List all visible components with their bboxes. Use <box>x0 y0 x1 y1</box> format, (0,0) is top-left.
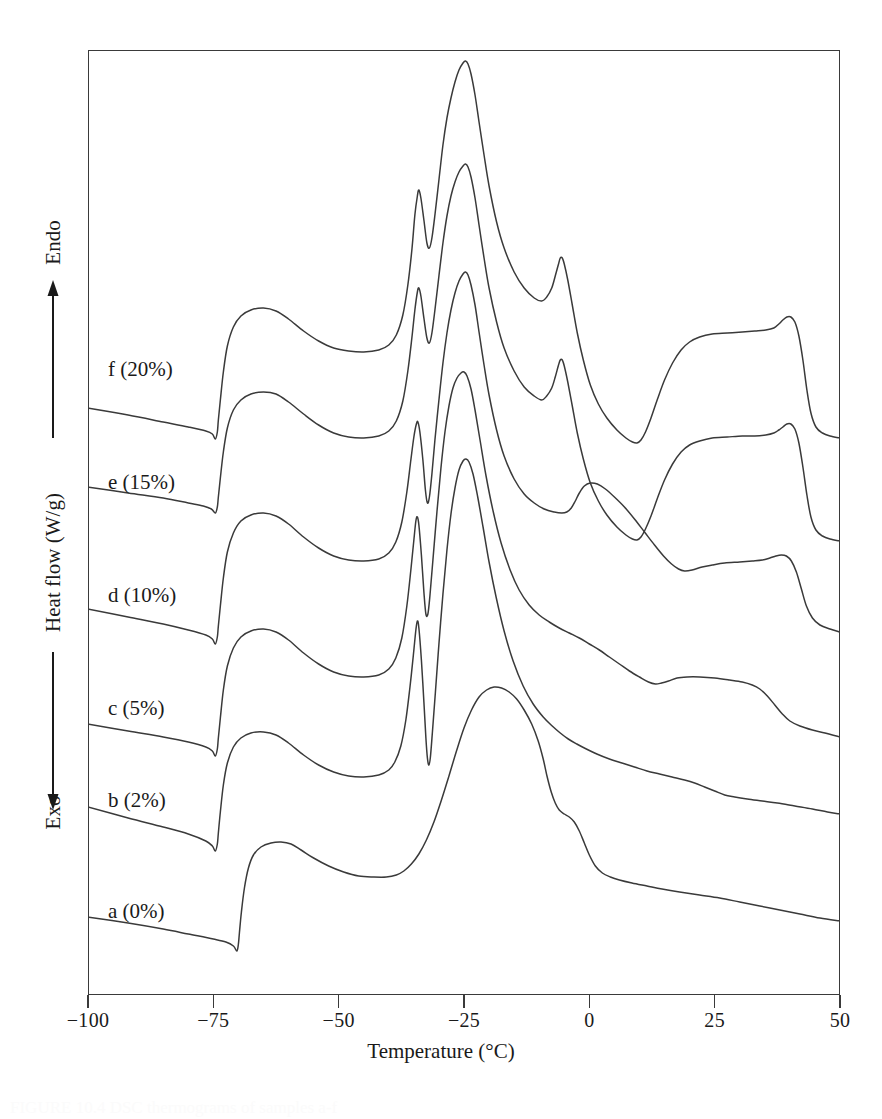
x-tick-5 <box>714 995 716 1008</box>
curve-label-c: c (5%) <box>108 696 165 721</box>
curve-a <box>88 687 840 951</box>
curve-e <box>88 164 840 541</box>
x-tick-label-1: −75 <box>197 1009 229 1032</box>
curve-f <box>88 61 840 443</box>
arrow-up-icon <box>45 280 61 440</box>
y-axis: Endo Heat flow (W/g) Exo <box>18 50 88 995</box>
curves-layer <box>0 0 882 1119</box>
x-tick-3 <box>463 995 465 1008</box>
curve-label-b: b (2%) <box>108 788 166 813</box>
arrow-down-icon <box>45 650 61 810</box>
x-tick-1 <box>213 995 215 1008</box>
y-axis-title: Heat flow (W/g) <box>41 493 66 632</box>
x-tick-label-6: 50 <box>830 1009 851 1032</box>
x-tick-2 <box>338 995 340 1008</box>
curve-label-f: f (20%) <box>108 357 173 382</box>
dsc-thermogram-figure: −100−75−50−2502550 Temperature (°C) Endo… <box>0 0 882 1119</box>
curve-label-d: d (10%) <box>108 583 176 608</box>
x-tick-4 <box>589 995 591 1008</box>
exo-label: Exo <box>41 796 66 830</box>
figure-caption: FIGURE 10.4 DSC thermograms of samples a… <box>10 1098 872 1118</box>
x-tick-label-3: −25 <box>448 1009 480 1032</box>
x-tick-label-2: −50 <box>323 1009 355 1032</box>
x-tick-0 <box>87 995 89 1008</box>
curve-label-a: a (0%) <box>108 899 165 924</box>
endo-label: Endo <box>41 220 66 264</box>
x-tick-label-5: 25 <box>704 1009 725 1032</box>
x-tick-6 <box>839 995 841 1008</box>
x-axis-title: Temperature (°C) <box>0 1039 882 1064</box>
curve-b <box>88 459 840 851</box>
curve-d <box>88 272 840 644</box>
x-tick-label-4: 0 <box>584 1009 594 1032</box>
curve-label-e: e (15%) <box>108 470 175 495</box>
x-tick-label-0: −100 <box>67 1009 109 1032</box>
